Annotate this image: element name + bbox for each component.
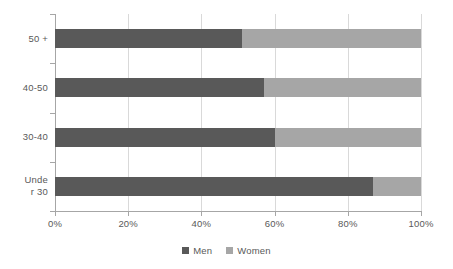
x-axis-tick <box>348 211 349 216</box>
y-axis-tick <box>50 14 55 15</box>
bar-row <box>0 78 453 97</box>
bar-segment-women <box>264 78 421 97</box>
bar-segment-men <box>55 128 275 147</box>
bar-segment-women <box>373 177 421 196</box>
x-axis-tick <box>201 211 202 216</box>
x-axis-tick-label: 40% <box>179 218 223 229</box>
bar-segment-women <box>242 29 421 48</box>
legend: Men Women <box>0 245 453 256</box>
x-axis-tick-label: 20% <box>106 218 150 229</box>
y-axis-category-label-line: r 30 <box>2 186 48 198</box>
stacked-bar-chart: 50 +40-5030-40Under 30 0%20%40%60%80%100… <box>0 0 453 269</box>
legend-label-women: Women <box>237 245 271 256</box>
y-axis-category-label-line: 40-50 <box>2 82 48 94</box>
x-axis-tick-label: 0% <box>33 218 77 229</box>
bar-segment-men <box>55 29 242 48</box>
y-axis-tick <box>50 113 55 114</box>
x-axis-tick-label: 80% <box>326 218 370 229</box>
bar-segment-men <box>55 78 264 97</box>
y-axis-tick <box>50 162 55 163</box>
legend-swatch-women-icon <box>226 247 233 254</box>
bar-row <box>0 128 453 147</box>
x-axis-line <box>55 211 422 212</box>
legend-swatch-men-icon <box>182 247 189 254</box>
legend-item-men: Men <box>182 245 212 256</box>
x-axis-tick-label: 100% <box>399 218 443 229</box>
y-axis-tick <box>50 63 55 64</box>
x-axis-tick <box>421 211 422 216</box>
y-axis-category-label-line: 30-40 <box>2 131 48 143</box>
y-axis-category-label-line: Unde <box>2 174 48 186</box>
bar-segment-men <box>55 177 373 196</box>
legend-label-men: Men <box>193 245 212 256</box>
x-axis-tick <box>128 211 129 216</box>
y-axis-category-label: Under 30 <box>2 174 48 198</box>
bar-segment-women <box>275 128 421 147</box>
x-axis-tick <box>55 211 56 216</box>
x-axis-tick <box>275 211 276 216</box>
bar-row <box>0 177 453 196</box>
y-axis-category-label: 50 + <box>2 33 48 45</box>
legend-item-women: Women <box>226 245 271 256</box>
y-axis-category-label: 30-40 <box>2 131 48 143</box>
bar-row <box>0 29 453 48</box>
y-axis-category-label: 40-50 <box>2 82 48 94</box>
y-axis-category-label-line: 50 + <box>2 33 48 45</box>
x-axis-tick-label: 60% <box>253 218 297 229</box>
